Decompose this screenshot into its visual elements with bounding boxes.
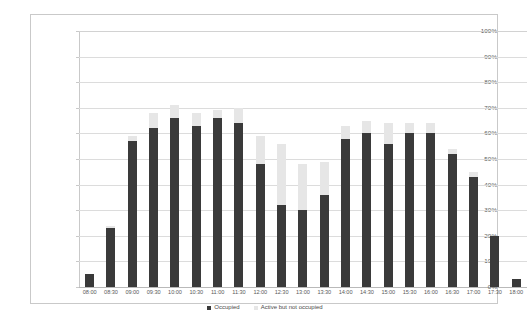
bar-stack[interactable] <box>469 31 478 287</box>
bar-stack[interactable] <box>512 31 521 287</box>
bar-segment-active-not-occupied[interactable] <box>256 136 265 164</box>
x-axis-tick-label: 15:00 <box>378 289 399 296</box>
bar-slot[interactable] <box>100 31 121 287</box>
bar-segment-occupied[interactable] <box>213 118 222 287</box>
bar-segment-occupied[interactable] <box>320 195 329 287</box>
bar-slot[interactable] <box>79 31 100 287</box>
x-axis-tick-label: 15:30 <box>399 289 420 296</box>
bar-stack[interactable] <box>448 31 457 287</box>
bar-stack[interactable] <box>490 31 499 287</box>
bar-stack[interactable] <box>320 31 329 287</box>
bar-segment-occupied[interactable] <box>405 133 414 287</box>
bar-segment-occupied[interactable] <box>128 141 137 287</box>
bar-stack[interactable] <box>256 31 265 287</box>
bar-segment-occupied[interactable] <box>469 177 478 287</box>
bar-stack[interactable] <box>128 31 137 287</box>
x-axis-tick-label: 09:30 <box>143 289 164 296</box>
bar-segment-occupied[interactable] <box>234 123 243 287</box>
bar-segment-active-not-occupied[interactable] <box>298 164 307 210</box>
bar-segment-active-not-occupied[interactable] <box>384 123 393 143</box>
bar-segment-active-not-occupied[interactable] <box>362 121 371 134</box>
bar-slot[interactable] <box>506 31 527 287</box>
bar-stack[interactable] <box>277 31 286 287</box>
bar-segment-occupied[interactable] <box>192 126 201 287</box>
x-axis-tick-label: 10:30 <box>186 289 207 296</box>
chart-container: 100%90%80%70%60%50%40%30%20%10%0% 08:000… <box>30 14 498 304</box>
bar-segment-occupied[interactable] <box>341 139 350 287</box>
bar-segment-occupied[interactable] <box>298 210 307 287</box>
bar-slot[interactable] <box>463 31 484 287</box>
x-axis-tick-label: 16:30 <box>442 289 463 296</box>
bar-segment-active-not-occupied[interactable] <box>170 105 179 118</box>
bar-slot[interactable] <box>356 31 377 287</box>
bar-stack[interactable] <box>362 31 371 287</box>
x-axis-tick-label: 09:00 <box>122 289 143 296</box>
bar-segment-active-not-occupied[interactable] <box>405 123 414 133</box>
bar-segment-active-not-occupied[interactable] <box>234 108 243 123</box>
bar-stack[interactable] <box>192 31 201 287</box>
bar-slot[interactable] <box>399 31 420 287</box>
bar-slot[interactable] <box>186 31 207 287</box>
bar-segment-active-not-occupied[interactable] <box>277 144 286 205</box>
bar-segment-active-not-occupied[interactable] <box>426 123 435 133</box>
bar-slot[interactable] <box>164 31 185 287</box>
bar-slot[interactable] <box>292 31 313 287</box>
bar-stack[interactable] <box>213 31 222 287</box>
bar-segment-occupied[interactable] <box>106 228 115 287</box>
x-axis-tick-label: 12:30 <box>271 289 292 296</box>
bar-slot[interactable] <box>228 31 249 287</box>
square-marker-icon <box>254 306 258 310</box>
x-axis-tick-label: 10:00 <box>164 289 185 296</box>
bar-stack[interactable] <box>405 31 414 287</box>
bar-slot[interactable] <box>122 31 143 287</box>
bar-segment-active-not-occupied[interactable] <box>341 126 350 139</box>
bar-segment-occupied[interactable] <box>277 205 286 287</box>
x-axis-tick-label: 12:00 <box>250 289 271 296</box>
legend-item-label: Active but not occupied <box>261 304 323 311</box>
bar-slot[interactable] <box>271 31 292 287</box>
bar-stack[interactable] <box>85 31 94 287</box>
bar-stack[interactable] <box>426 31 435 287</box>
bar-segment-occupied[interactable] <box>256 164 265 287</box>
legend-item[interactable]: Occupied <box>207 304 239 311</box>
bar-slot[interactable] <box>207 31 228 287</box>
bar-segment-occupied[interactable] <box>170 118 179 287</box>
bar-segment-occupied[interactable] <box>384 144 393 287</box>
bar-segment-active-not-occupied[interactable] <box>192 113 201 126</box>
bar-segment-occupied[interactable] <box>85 274 94 287</box>
bar-stack[interactable] <box>384 31 393 287</box>
bar-slot[interactable] <box>250 31 271 287</box>
chart-legend: OccupiedActive but not occupied <box>31 304 499 311</box>
x-axis-tick-label: 11:00 <box>207 289 228 296</box>
bar-segment-active-not-occupied[interactable] <box>149 113 158 128</box>
bar-stack[interactable] <box>341 31 350 287</box>
x-axis-tick-label: 17:00 <box>463 289 484 296</box>
bar-segment-occupied[interactable] <box>490 236 499 287</box>
bar-segment-occupied[interactable] <box>448 154 457 287</box>
x-axis-tick-label: 11:30 <box>228 289 249 296</box>
bar-slot[interactable] <box>314 31 335 287</box>
bar-slot[interactable] <box>442 31 463 287</box>
bar-segment-occupied[interactable] <box>149 128 158 287</box>
bar-stack[interactable] <box>298 31 307 287</box>
bar-segment-active-not-occupied[interactable] <box>213 110 222 118</box>
legend-item[interactable]: Active but not occupied <box>254 304 323 311</box>
bar-stack[interactable] <box>234 31 243 287</box>
bar-slot[interactable] <box>335 31 356 287</box>
bar-segment-active-not-occupied[interactable] <box>320 162 329 195</box>
bar-segment-occupied[interactable] <box>426 133 435 287</box>
x-axis-tick-label: 08:30 <box>100 289 121 296</box>
bar-stack[interactable] <box>106 31 115 287</box>
bar-slot[interactable] <box>143 31 164 287</box>
bar-slot[interactable] <box>378 31 399 287</box>
x-axis-tick-label: 13:00 <box>292 289 313 296</box>
x-axis-tick-label: 17:30 <box>484 289 505 296</box>
bar-slot[interactable] <box>420 31 441 287</box>
bar-stack[interactable] <box>149 31 158 287</box>
bar-slot[interactable] <box>484 31 505 287</box>
bar-segment-occupied[interactable] <box>362 133 371 287</box>
bar-stack[interactable] <box>170 31 179 287</box>
legend-item-label: Occupied <box>214 304 239 311</box>
bar-segment-occupied[interactable] <box>512 279 521 287</box>
x-axis-tick-label: 16:00 <box>420 289 441 296</box>
